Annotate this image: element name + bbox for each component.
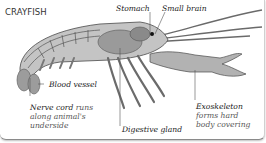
crayfish-body (20, 22, 168, 80)
label-exoskeleton-head: Exoskeleton (196, 102, 243, 111)
label-exoskeleton-line3: body covering (196, 120, 250, 129)
stomach-organ (130, 27, 150, 41)
tail-fan (17, 69, 40, 94)
eye (150, 32, 154, 36)
label-nerve-cord: Nerve cord runs along animal's underside (30, 103, 93, 130)
label-nerve-cord-line3: underside (30, 121, 68, 130)
label-blood-vessel: Blood vessel (49, 80, 97, 89)
label-nerve-cord-head: Nerve cord (30, 103, 73, 112)
label-digestive-gland: Digestive gland (122, 125, 182, 134)
label-small-brain: Small brain (162, 4, 207, 13)
label-exoskeleton: Exoskeleton forms hard body covering (196, 102, 250, 129)
label-nerve-cord-rest: runs (76, 103, 93, 112)
label-stomach: Stomach (116, 4, 150, 13)
label-exoskeleton-line2: forms hard (196, 111, 238, 120)
label-nerve-cord-line2: along animal's (30, 112, 86, 121)
claw (150, 52, 246, 76)
